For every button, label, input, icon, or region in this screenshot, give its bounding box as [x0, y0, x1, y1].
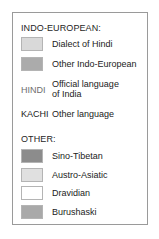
- label-dravidian: Dravidian: [52, 188, 90, 198]
- label-sino-tibetan: Sino-Tibetan: [52, 151, 103, 161]
- label-official-language-line1: Official language: [52, 79, 119, 89]
- map-legend: INDO-EUROPEAN: Dialect of Hindi Other In…: [12, 12, 148, 225]
- swatch-other-indo-european: [21, 57, 43, 71]
- heading-indo-european: INDO-EUROPEAN:: [21, 23, 101, 33]
- swatch-burushaski: [21, 205, 43, 219]
- label-official-language-line2: of India: [52, 89, 82, 99]
- label-austro-asiatic: Austro-Asiatic: [52, 170, 108, 180]
- swatch-dialect-of-hindi: [21, 37, 43, 51]
- swatch-dravidian: [21, 186, 43, 200]
- swatch-sino-tibetan: [21, 149, 43, 163]
- label-other-indo-european: Other Indo-European: [52, 59, 137, 69]
- code-hindi: HINDI: [21, 85, 46, 95]
- code-kachi: KACHI: [21, 109, 49, 119]
- label-burushaski: Burushaski: [52, 207, 97, 217]
- swatch-austro-asiatic: [21, 168, 43, 182]
- label-other-language: Other language: [52, 109, 114, 119]
- label-dialect-of-hindi: Dialect of Hindi: [52, 39, 113, 49]
- heading-other: OTHER:: [21, 134, 56, 144]
